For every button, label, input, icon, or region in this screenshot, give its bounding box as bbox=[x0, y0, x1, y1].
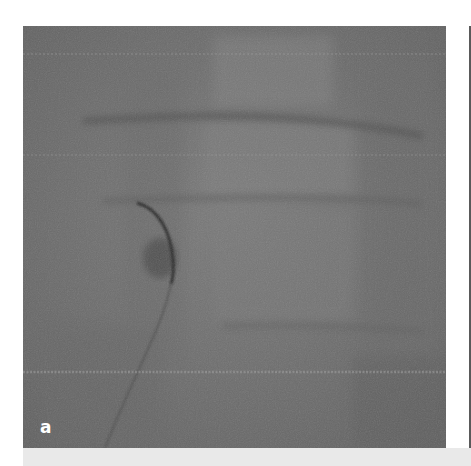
caption-band bbox=[23, 448, 471, 466]
xray-image-panel: a bbox=[23, 26, 446, 448]
panel-label: a bbox=[40, 419, 51, 436]
xray-image bbox=[23, 26, 446, 448]
